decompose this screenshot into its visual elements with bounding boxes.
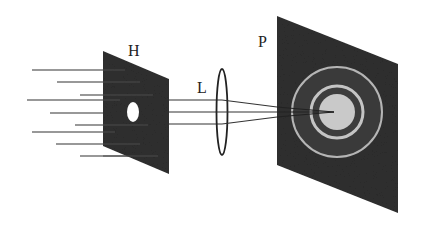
transmitted-rays (169, 100, 222, 124)
optical-diagram: H L P (0, 0, 423, 234)
label-h: H (128, 42, 140, 59)
label-l: L (197, 79, 207, 96)
aperture-hole (127, 102, 139, 122)
converging-rays-outside (222, 100, 277, 124)
label-p: P (258, 33, 267, 50)
projection-screen (277, 16, 398, 213)
hole-screen (103, 51, 169, 174)
